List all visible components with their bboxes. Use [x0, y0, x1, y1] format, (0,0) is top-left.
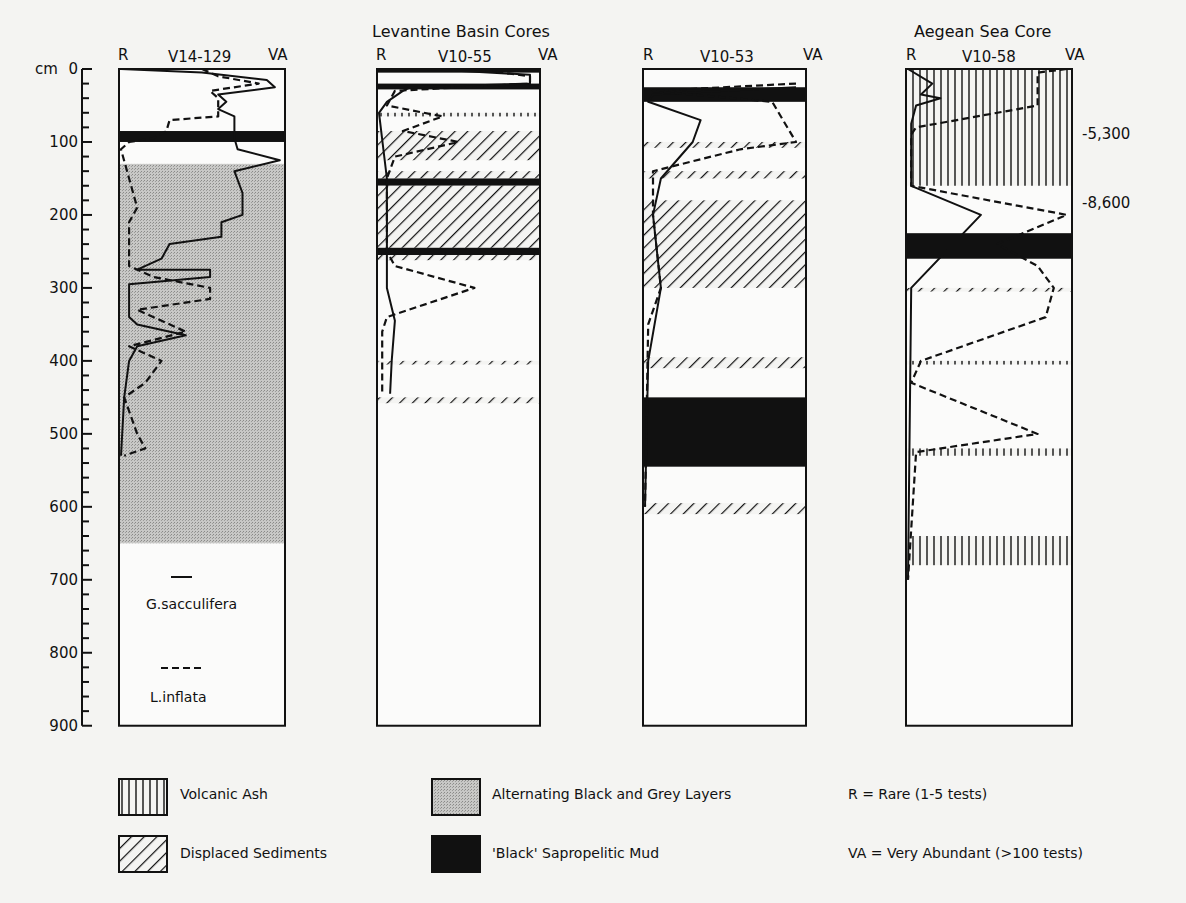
layer-ash: [906, 69, 1072, 186]
layer-ash-thin: [906, 361, 1072, 365]
layer-displaced-thin: [643, 357, 806, 368]
y-tick-label: 100: [38, 133, 78, 151]
y-tick-label: 500: [38, 425, 78, 443]
core3-r-label: R: [643, 46, 653, 64]
y-tick-label: 200: [38, 206, 78, 224]
legend-volcanic-ash: Volcanic Ash: [180, 786, 268, 802]
legend-alternating-layers: Alternating Black and Grey Layers: [492, 786, 731, 802]
core4-va-label: VA: [1065, 46, 1085, 64]
key-very-abundant: VA = Very Abundant (>100 tests): [848, 845, 1083, 861]
key-rare: R = Rare (1-5 tests): [848, 786, 987, 802]
legend-displaced-sediments: Displaced Sediments: [180, 845, 327, 861]
layer-displaced-thin: [377, 255, 540, 260]
age-label-5300: -5,300: [1082, 125, 1130, 143]
layer-ash: [906, 536, 1072, 565]
layer-sapropel: [377, 178, 540, 185]
core-plot: [0, 0, 1186, 903]
core3-va-label: VA: [803, 46, 823, 64]
swatch-displaced-sediments: [119, 836, 167, 872]
legend-sapropelitic-mud: 'Black' Sapropelitic Mud: [492, 845, 659, 861]
age-label-8600: -8,600: [1082, 194, 1130, 212]
y-tick-label: 900: [38, 717, 78, 735]
core2-va-label: VA: [538, 46, 558, 64]
core1-r-label: R: [118, 46, 128, 64]
layer-displaced-thin: [643, 503, 806, 514]
swatch-sapropelitic-mud: [432, 836, 480, 872]
layer-displaced-thin: [377, 397, 540, 403]
core2-r-label: R: [376, 46, 386, 64]
legend-l-inflata: L.inflata: [150, 689, 206, 705]
core4-r-label: R: [906, 46, 916, 64]
swatch-alternating-layers: [432, 779, 480, 815]
core2-id: V10-55: [438, 48, 492, 66]
y-tick-label: 400: [38, 352, 78, 370]
legend-g-sacculifera: G.sacculifera: [146, 596, 237, 612]
layer-displaced-thin: [377, 361, 540, 365]
y-tick-label: 0: [38, 60, 78, 78]
swatch-volcanic-ash: [119, 779, 167, 815]
layer-sapropel: [906, 233, 1072, 259]
core1-id: V14-129: [168, 48, 231, 66]
group-title-aegean: Aegean Sea Core: [914, 22, 1051, 41]
core4-id: V10-58: [962, 48, 1016, 66]
group-title-levantine: Levantine Basin Cores: [372, 22, 550, 41]
layer-sapropel: [377, 248, 540, 255]
layer-displaced: [377, 171, 540, 178]
y-tick-label: 600: [38, 498, 78, 516]
core3-id: V10-53: [700, 48, 754, 66]
core1-va-label: VA: [268, 46, 288, 64]
layer-sapropel: [643, 397, 806, 466]
y-tick-label: 300: [38, 279, 78, 297]
layer-displaced: [377, 186, 540, 248]
layer-displaced: [643, 200, 806, 288]
y-tick-label: 800: [38, 644, 78, 662]
y-tick-label: 700: [38, 571, 78, 589]
layer-displaced-thin: [906, 288, 1072, 292]
layer-ash-thin: [377, 113, 540, 117]
